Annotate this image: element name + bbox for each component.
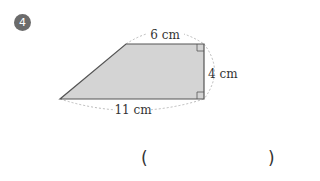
answer-close-paren: )	[268, 148, 275, 168]
right-length-label: 4 cm	[208, 67, 238, 81]
answer-open-paren: (	[141, 148, 148, 168]
answer-input-area[interactable]	[152, 150, 264, 170]
trapezoid-shape	[60, 44, 204, 99]
bottom-length-label: 11 cm	[114, 103, 152, 117]
top-length-label: 6 cm	[150, 28, 180, 42]
